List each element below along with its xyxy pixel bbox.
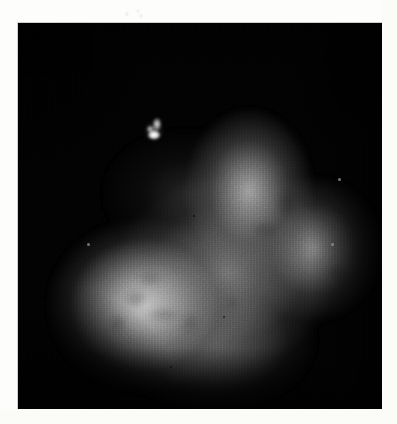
speckle-dark-2 [193,215,195,217]
faint-ink-smudge-icon [122,7,148,20]
paper-margin-right [382,0,397,424]
focal-hot-spot [136,111,174,151]
scan-page [0,0,397,424]
speckle-dark-4 [170,366,172,368]
vertical-scanline-layer [18,23,382,409]
scan-image-panel[interactable] [18,23,382,409]
paper-margin-bottom [0,409,397,424]
organ-body-layer [18,23,382,409]
vignette-layer [18,23,382,409]
speckle-bright-2 [331,243,334,246]
horizontal-raster-layer [18,23,382,409]
speckle-dark-1 [87,243,90,246]
speckle-bright-1 [338,178,341,181]
organ-mottling-layer [18,23,382,409]
speckle-dark-3 [223,316,225,318]
film-grain-layer [18,23,382,409]
